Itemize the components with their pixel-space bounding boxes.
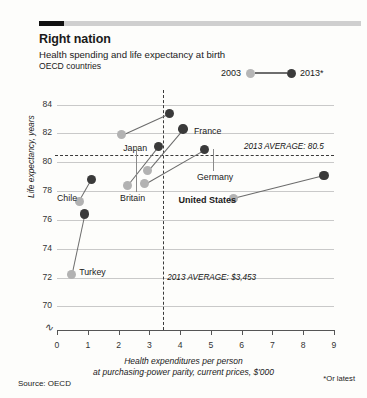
data-point-2003[interactable] <box>123 181 132 190</box>
y-axis-tick-label: 74 <box>42 243 52 253</box>
country-label: Germany <box>197 172 233 182</box>
y-axis-tick-label: 78 <box>42 185 52 195</box>
x-axis-tick-label: 1 <box>85 340 90 350</box>
legend-label-2013: 2013* <box>300 68 324 78</box>
y-axis-tick-label: 84 <box>42 99 52 109</box>
y-axis-tick-label: 82 <box>42 127 52 137</box>
gridline <box>57 306 334 307</box>
y-axis-tick-label: 76 <box>42 214 52 224</box>
data-point-2013[interactable] <box>178 124 188 134</box>
country-label: United States <box>179 195 237 205</box>
legend-dot-2013-icon <box>287 69 296 78</box>
x-axis-tick-label: 7 <box>270 340 275 350</box>
country-label: Turkey <box>79 267 106 277</box>
source-note: Source: OECD <box>18 379 71 388</box>
country-label-leader-line <box>213 149 214 170</box>
x-axis-tick-mark <box>149 330 150 335</box>
page-title: Right nation <box>39 32 111 46</box>
x-axis-tick-label: 3 <box>147 340 152 350</box>
x-axis-title-line1: Health expenditures per person <box>124 356 243 366</box>
data-point-2013[interactable] <box>200 145 210 155</box>
x-axis-title: Health expenditures per person at purcha… <box>0 356 367 378</box>
x-axis-tick-mark <box>242 330 243 335</box>
y-axis-tick-label: 80 <box>42 156 52 166</box>
country-label-leader-line <box>136 146 137 192</box>
data-point-2013[interactable] <box>80 209 90 219</box>
data-point-2013[interactable] <box>154 142 164 152</box>
x-axis-tick-label: 5 <box>208 340 213 350</box>
footnote: *Or latest <box>323 374 355 383</box>
data-point-2003[interactable] <box>117 130 126 139</box>
x-axis-title-line2: at purchasing-power parity, current pric… <box>93 367 274 377</box>
gridline <box>57 220 334 221</box>
gridline <box>57 191 334 192</box>
country-label: Britain <box>120 193 145 203</box>
plot-area: 70727476788082842013 AVERAGE: 80.52013 A… <box>57 96 334 318</box>
x-axis-tick-label: 2 <box>116 340 121 350</box>
x-axis-tick-mark <box>57 330 58 335</box>
x-axis-tick-mark <box>272 330 273 335</box>
x-axis-tick-mark <box>180 330 181 335</box>
legend-connector <box>255 72 287 73</box>
x-axis-tick-mark <box>119 330 120 335</box>
country-connector-line <box>233 175 324 199</box>
x-axis-tick-mark <box>303 330 304 335</box>
gridline <box>57 105 334 106</box>
x-axis-tick-mark <box>334 330 335 335</box>
data-point-2013[interactable] <box>87 175 97 185</box>
vertical-average-line <box>163 90 164 330</box>
y-axis-tick-label: 72 <box>42 272 52 282</box>
x-axis-tick-label: 0 <box>55 340 60 350</box>
legend: 2003 2013* <box>221 68 324 78</box>
chart-subtitle-secondary: OECD countries <box>39 61 101 71</box>
country-label: France <box>194 126 221 136</box>
x-axis-tick-label: 9 <box>332 340 337 350</box>
y-axis-title: Life expectancy, years <box>26 115 36 198</box>
legend-dot-2003-icon <box>246 69 255 78</box>
x-axis-line <box>57 330 334 331</box>
gridline <box>57 249 334 250</box>
y-axis-tick-label: 70 <box>42 300 52 310</box>
x-axis-tick-label: 8 <box>301 340 306 350</box>
vertical-average-label: 2013 AVERAGE: $3,453 <box>167 273 256 282</box>
data-point-2003[interactable] <box>140 179 149 188</box>
x-axis-tick-label: 6 <box>239 340 244 350</box>
gridline <box>57 162 334 163</box>
x-axis-tick-mark <box>211 330 212 335</box>
country-label: Chile <box>57 193 77 203</box>
data-point-2013[interactable] <box>319 171 329 181</box>
data-point-2003[interactable] <box>143 166 152 175</box>
chart-subtitle: Health spending and life expectancy at b… <box>39 49 225 60</box>
x-axis-tick-mark <box>88 330 89 335</box>
top-rule-cap <box>39 21 64 26</box>
chart-page: Right nation Health spending and life ex… <box>0 0 367 398</box>
top-rule <box>39 21 361 26</box>
data-point-2013[interactable] <box>165 109 175 119</box>
x-axis-tick-label: 4 <box>178 340 183 350</box>
y-axis-break-icon: ∿ <box>44 321 53 334</box>
horizontal-average-label: 2013 AVERAGE: 80.5 <box>244 142 324 151</box>
legend-label-2003: 2003 <box>221 68 241 78</box>
